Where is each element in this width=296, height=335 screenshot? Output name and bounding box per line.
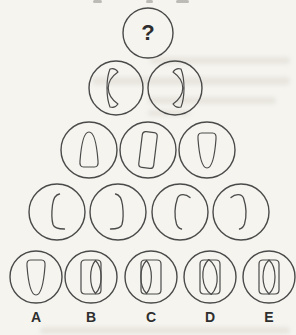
bullet-up-shape	[80, 132, 98, 167]
circle-outline	[90, 184, 146, 240]
open-hook-top-right-shape	[175, 195, 190, 229]
scanned-page: ? A B C D E	[0, 0, 296, 335]
open-hook-bottom-left-shape	[111, 194, 124, 229]
open-hook-bottom-right-shape	[52, 194, 65, 229]
circle-outline	[184, 251, 236, 303]
lens-center-shape	[263, 260, 275, 294]
circle-outline	[179, 122, 235, 178]
circle-outline	[61, 122, 117, 178]
lens-right-shape	[91, 261, 102, 294]
puzzle-figure	[0, 0, 296, 335]
circle-outline	[29, 184, 85, 240]
option-C-circle	[125, 251, 177, 303]
open-hook-top-left-shape	[231, 195, 246, 229]
option-label-c: C	[140, 309, 162, 325]
lens-wide-shape	[202, 259, 219, 295]
question-mark: ?	[136, 19, 160, 47]
circle-row2-col2	[148, 61, 202, 115]
circle-row3-col2	[120, 122, 176, 178]
circle-row4-col3	[152, 184, 208, 240]
circle-row3-col1	[61, 122, 117, 178]
circle-row4-col4	[213, 184, 269, 240]
option-label-e: E	[258, 309, 280, 325]
option-label-b: B	[80, 309, 102, 325]
circle-row2-col1	[89, 61, 143, 115]
circle-row3-col3	[179, 122, 235, 178]
rounded-rect-shape	[259, 260, 279, 294]
option-label-d: D	[199, 309, 221, 325]
circle-row4-col2	[90, 184, 146, 240]
circle-outline	[213, 184, 269, 240]
option-E-circle	[243, 251, 295, 303]
circle-row4-col1	[29, 184, 85, 240]
option-D-circle	[184, 251, 236, 303]
option-B-circle	[65, 251, 117, 303]
circle-outline	[120, 122, 176, 178]
lens-left-shape	[141, 261, 152, 294]
circle-outline	[152, 184, 208, 240]
circle-outline	[243, 251, 295, 303]
crescent-left-shape	[107, 69, 118, 108]
option-label-a: A	[25, 309, 47, 325]
crescent-right-shape	[173, 69, 184, 108]
rounded-rect-tilted-shape	[138, 131, 157, 169]
bullet-down-shape	[198, 133, 216, 168]
bullet-down-shape	[27, 260, 45, 295]
option-A-circle	[10, 251, 62, 303]
